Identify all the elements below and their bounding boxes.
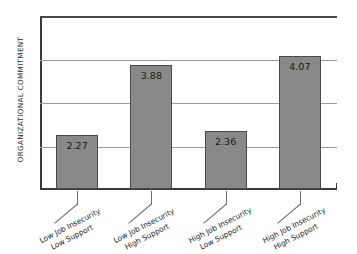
plot-area: 12345 2.273.882.364.07 bbox=[40, 16, 337, 190]
x-axis-end-tick bbox=[336, 183, 338, 190]
category-label: High Job InsecurityHigh Support bbox=[261, 205, 333, 254]
category-label: Low Job InsecurityLow Support bbox=[38, 207, 107, 254]
plot-top-border bbox=[40, 16, 337, 18]
label-leader-line bbox=[151, 191, 152, 205]
bar: 3.88 bbox=[130, 65, 172, 189]
bar-value-label: 2.36 bbox=[206, 136, 246, 147]
y-axis-title: ORGANIZATIONAL COMMITMENT bbox=[16, 10, 25, 190]
bar: 2.27 bbox=[56, 135, 98, 189]
bar-value-label: 4.07 bbox=[280, 61, 320, 72]
category-label: Low Job InsecurityHigh Support bbox=[112, 207, 181, 254]
category-label: High Job InsecurityLow Support bbox=[187, 205, 259, 254]
bar-chart: ORGANIZATIONAL COMMITMENT 12345 2.273.88… bbox=[0, 0, 357, 254]
bar-value-label: 2.27 bbox=[57, 140, 97, 151]
bar: 2.36 bbox=[205, 131, 247, 189]
bar-value-label: 3.88 bbox=[131, 70, 171, 81]
bar: 4.07 bbox=[279, 56, 321, 189]
